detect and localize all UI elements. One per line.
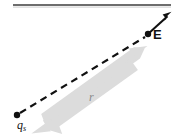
source-charge-subscript: s [23, 124, 26, 133]
electric-field-diagram: E qs r [0, 0, 182, 138]
field-point-dot [145, 31, 151, 37]
diagram-canvas [0, 0, 182, 138]
field-vector-label: E [153, 28, 162, 41]
distance-label: r [89, 91, 94, 103]
source-charge-label: qs [17, 119, 26, 133]
